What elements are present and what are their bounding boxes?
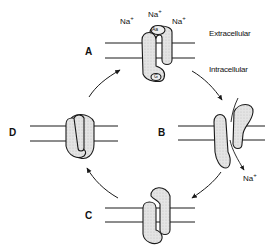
sodium-ion-label-right: Na+ (172, 15, 186, 26)
arrow-d-to-a (89, 70, 120, 97)
site-label-g: G (154, 74, 158, 79)
state-d-protein (66, 115, 94, 159)
sodium-ion-released-label: Na+ (243, 172, 257, 183)
site-label-aa: Aa (152, 27, 158, 32)
intracellular-label: Intracellular (209, 66, 248, 74)
sodium-ion-label-left: Na+ (120, 15, 134, 26)
arrow-a-to-b (192, 71, 222, 100)
state-label-b: B (158, 128, 165, 138)
arrow-b-to-c (192, 172, 221, 198)
arrow-c-to-d (87, 168, 118, 198)
state-b-protein (214, 105, 253, 169)
sodium-ion-label-center: Na+ (148, 8, 162, 19)
extracellular-label: Extracellular (209, 30, 250, 38)
state-c-protein (143, 188, 170, 244)
state-label-d: D (9, 128, 16, 138)
cycle-arrows (87, 70, 222, 198)
state-label-c: C (85, 211, 92, 221)
state-label-a: A (85, 47, 92, 57)
